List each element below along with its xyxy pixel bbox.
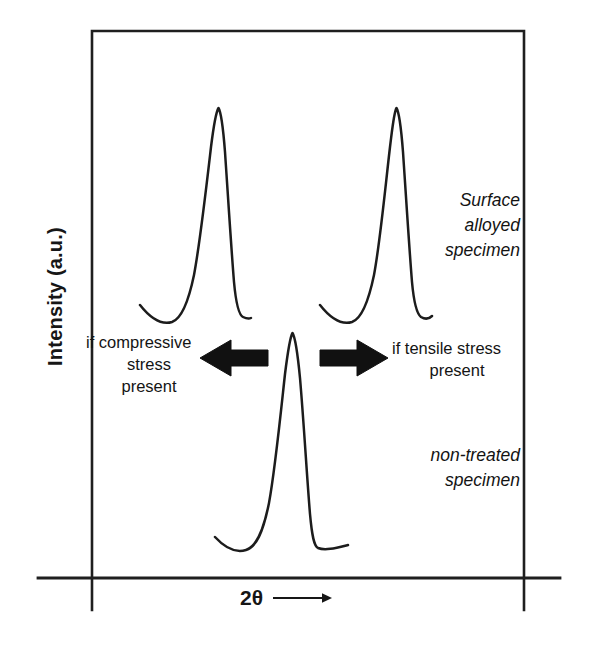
- annotation-compressive-line-3: present: [88, 376, 210, 398]
- label-surface-alloyed-line-1: Surface: [372, 188, 520, 213]
- left-block-arrow-icon: [200, 340, 268, 376]
- label-surface-alloyed-line-2: alloyed: [372, 213, 520, 238]
- peak-curve-compressive: [140, 108, 251, 323]
- annotation-compressive-line-2: stress: [88, 354, 210, 376]
- annotation-compressive-line-1: if compressive: [86, 332, 210, 354]
- annotation-compressive-stress: if compressive stress present: [88, 332, 210, 397]
- left-block-arrow-shape: [200, 340, 268, 376]
- annotation-tensile-stress: if tensile stress present: [392, 338, 522, 382]
- right-arrow-icon: [272, 591, 334, 605]
- right-block-arrow-shape: [320, 340, 388, 376]
- label-non-treated-line-2: specimen: [362, 468, 520, 493]
- x-axis-label-text: 2θ: [240, 586, 263, 610]
- x-axis-arrow-head: [322, 593, 332, 603]
- diffraction-peak-shift-figure: Intensity (a.u.) 2θ if compressive stres…: [0, 0, 610, 645]
- label-surface-alloyed-specimen: Surface alloyed specimen: [372, 188, 520, 263]
- label-surface-alloyed-line-3: specimen: [372, 238, 520, 263]
- label-non-treated-line-1: non-treated: [362, 443, 520, 468]
- figure-canvas: [0, 0, 610, 645]
- right-block-arrow-icon: [320, 340, 388, 376]
- peak-path-compressive: [140, 108, 251, 323]
- annotation-tensile-line-1: if tensile stress: [392, 338, 522, 360]
- x-axis-label-group: 2θ: [240, 586, 334, 610]
- y-axis-label: Intensity (a.u.): [44, 187, 67, 407]
- label-non-treated-specimen: non-treated specimen: [362, 443, 520, 493]
- annotation-tensile-line-2: present: [392, 360, 522, 382]
